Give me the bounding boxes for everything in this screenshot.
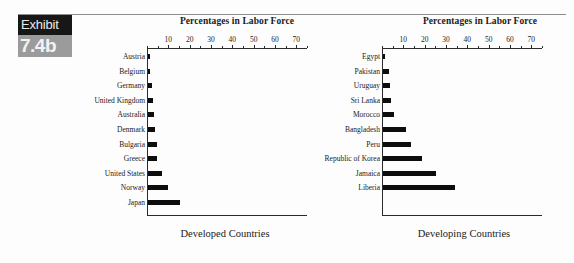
bar	[148, 98, 153, 103]
x-axis-tick	[499, 46, 500, 48]
x-axis-tick-label: 40	[229, 35, 237, 44]
x-axis-tick	[403, 45, 404, 48]
plot-area-developed: 10203040506070AustriaBelgiumGermanyUnite…	[58, 38, 308, 218]
x-axis-tick	[457, 46, 458, 48]
bar	[383, 127, 406, 132]
bar	[383, 112, 394, 117]
bar	[383, 185, 455, 190]
category-label: Peru	[300, 141, 380, 149]
x-axis-tick	[510, 45, 511, 48]
bar	[148, 200, 180, 205]
x-axis-tick	[446, 45, 447, 48]
chart-panel-developed: Percentages in Labor Force 1020304050607…	[58, 16, 308, 251]
bar	[148, 127, 155, 132]
x-axis-tick	[243, 46, 244, 48]
category-label: Bangladesh	[300, 126, 380, 134]
bar	[383, 69, 389, 74]
x-axis-tick	[478, 46, 479, 48]
x-axis-tick-label: 70	[528, 35, 536, 44]
category-label: Jamaica	[300, 170, 380, 178]
bar	[383, 142, 411, 147]
x-axis-line	[382, 48, 542, 49]
bar	[148, 69, 150, 74]
category-label: Morocco	[300, 111, 380, 119]
category-label: Bulgaria	[59, 141, 145, 149]
category-label: Germany	[59, 82, 145, 90]
bar	[148, 142, 157, 147]
x-axis-tick-label: 30	[207, 35, 215, 44]
x-axis-tick	[158, 46, 159, 48]
category-label: Austria	[59, 53, 145, 61]
x-axis-tick	[286, 46, 287, 48]
x-axis-tick-label: 10	[165, 35, 173, 44]
x-axis-tick	[222, 46, 223, 48]
category-label: Denmark	[59, 126, 145, 134]
x-axis-tick	[275, 45, 276, 48]
x-axis-tick	[264, 46, 265, 48]
x-axis-tick	[467, 45, 468, 48]
x-axis-tick	[211, 45, 212, 48]
category-label: Greece	[59, 155, 145, 163]
category-label: Pakistan	[300, 68, 380, 76]
category-label: Republic of Korea	[300, 155, 380, 163]
x-axis-tick-label: 20	[186, 35, 194, 44]
x-axis-tick	[296, 45, 297, 48]
bar	[383, 156, 422, 161]
bar	[148, 185, 168, 190]
category-label: Liberia	[300, 184, 380, 192]
category-label: Norway	[59, 184, 145, 192]
bar	[148, 83, 152, 88]
category-label: Australia	[59, 111, 145, 119]
category-label: Sri Lanka	[300, 97, 380, 105]
category-label: Uruguay	[300, 82, 380, 90]
x-axis-tick	[531, 45, 532, 48]
x-axis-tick	[393, 46, 394, 48]
page-top-rule	[18, 14, 566, 15]
x-axis-tick-label: 30	[442, 35, 450, 44]
bar	[148, 112, 154, 117]
x-axis-tick	[521, 46, 522, 48]
x-axis-tick	[414, 46, 415, 48]
bar	[148, 171, 162, 176]
bar	[383, 171, 436, 176]
bar	[148, 54, 150, 59]
category-label: Japan	[59, 199, 145, 207]
x-axis-tick-label: 60	[271, 35, 279, 44]
category-label: United Kingdom	[59, 97, 145, 105]
bar	[148, 156, 157, 161]
plot-bottom-rule	[382, 215, 542, 216]
category-label: Egypt	[300, 53, 380, 61]
exhibit-label: Exhibit	[21, 17, 59, 32]
x-axis-tick-label: 20	[421, 35, 429, 44]
plot-bottom-rule	[147, 215, 307, 216]
x-axis-tick	[489, 45, 490, 48]
x-axis-tick	[200, 46, 201, 48]
x-axis-tick-label: 40	[464, 35, 472, 44]
x-axis-tick	[232, 45, 233, 48]
bar	[383, 83, 390, 88]
x-axis-tick	[179, 46, 180, 48]
x-axis-line	[147, 48, 307, 49]
category-label: United States	[59, 170, 145, 178]
x-axis-tick	[190, 45, 191, 48]
bar	[383, 98, 391, 103]
x-axis-tick-label: 60	[506, 35, 514, 44]
x-axis-tick	[542, 46, 543, 48]
chart-title-developing: Percentages in Labor Force	[300, 16, 574, 26]
chart-panel-developing: Percentages in Labor Force 1020304050607…	[300, 16, 568, 251]
x-axis-tick-label: 10	[400, 35, 408, 44]
chart-caption-developing: Developing Countries	[300, 228, 574, 239]
plot-area-developing: 10203040506070EgyptPakistanUruguaySri La…	[300, 38, 568, 218]
exhibit-page: Exhibit 7.4b Percentages in Labor Force …	[0, 0, 574, 263]
x-axis-tick	[425, 45, 426, 48]
x-axis-tick	[254, 45, 255, 48]
x-axis-tick-label: 50	[485, 35, 493, 44]
category-label: Belgium	[59, 68, 145, 76]
bar	[383, 54, 385, 59]
x-axis-tick-label: 50	[250, 35, 258, 44]
exhibit-number: 7.4b	[20, 35, 56, 56]
x-axis-tick-label: 70	[293, 35, 301, 44]
x-axis-tick	[168, 45, 169, 48]
x-axis-tick	[435, 46, 436, 48]
